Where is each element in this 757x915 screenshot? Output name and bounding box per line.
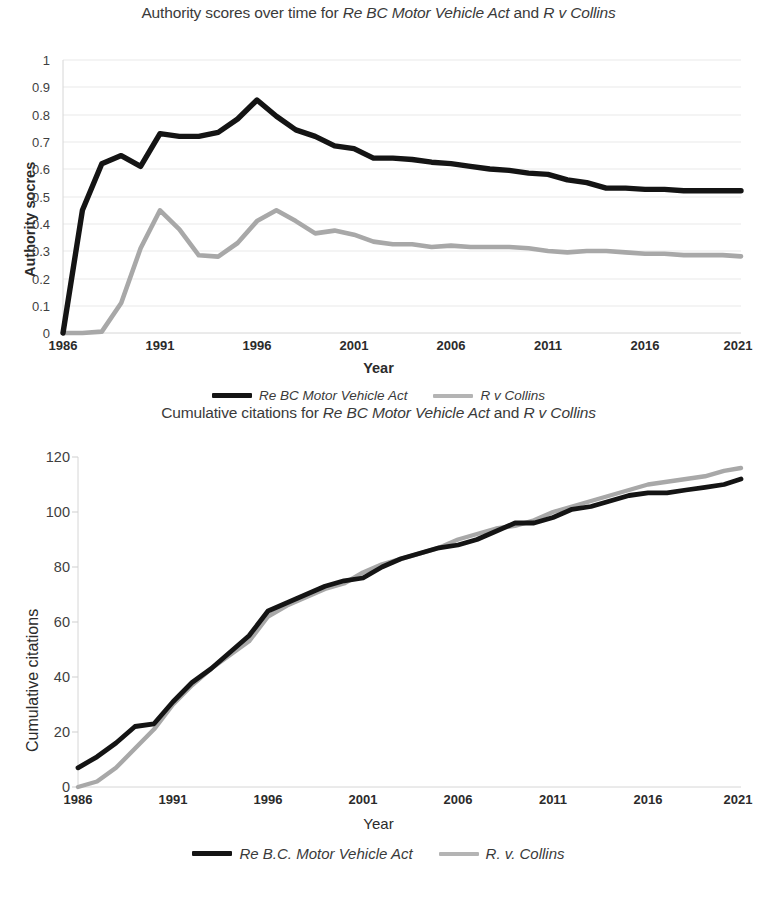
chart2-legend-item-re-bc-motor-vehicle-act[interactable]: Re B.C. Motor Vehicle Act [192,845,412,862]
chart2-series-r-v-collins [78,468,741,787]
chart1-ytick-1: 1 [0,53,50,68]
chart2-title-case1: Re BC Motor Vehicle Act [323,404,490,421]
chart1-title-case2: R v Collins [543,4,615,21]
chart2-legend-swatch-black [192,851,232,856]
chart1-ytick-0: 0 [0,326,50,341]
chart1-ytick-09: 0.9 [0,80,50,95]
chart2-xtick-2011: 2011 [539,792,567,807]
chart2-xtick-1986: 1986 [64,792,93,807]
chart2-xtick-1991: 1991 [159,792,188,807]
chart1-gridlines [63,60,741,306]
chart2-xtick-2006: 2006 [444,792,473,807]
chart2-title: Cumulative citations for Re BC Motor Veh… [0,400,757,422]
chart1-series-r-v-collins [63,210,741,333]
chart1-x-axis-title: Year [0,360,757,376]
chart2-y-tickmarks [72,457,78,787]
chart2-x-axis-title: Year [0,815,757,832]
chart1-xtick-1986: 1986 [49,338,78,353]
chart1-ytick-06: 0.6 [0,162,50,177]
chart2-ytick-120: 120 [0,449,70,465]
chart1-legend-swatch-gray [433,394,473,398]
chart2-title-mid: and [490,404,524,421]
chart1-xtick-2021: 2021 [724,338,753,353]
chart2-title-case2: R v Collins [523,404,595,421]
chart1-svg [0,22,757,352]
chart2-xtick-2021: 2021 [724,792,753,807]
chart1-ytick-01: 0.1 [0,299,50,314]
chart1-title-pre: Authority scores over time for [141,4,342,21]
chart2-legend-swatch-gray [439,852,479,856]
chart2-plot-area: Cumulative citations 120 100 80 60 40 20… [0,422,757,807]
chart2-ytick-100: 100 [0,504,70,520]
chart2-ytick-60: 60 [0,614,70,630]
cumulative-citations-figure: Cumulative citations for Re BC Motor Veh… [0,400,757,915]
chart2-ytick-20: 20 [0,724,70,740]
chart2-legend-label-r-v-collins: R. v. Collins [486,845,565,862]
chart2-legend: Re B.C. Motor Vehicle Act R. v. Collins [0,845,757,862]
chart1-xtick-2006: 2006 [437,338,466,353]
chart1-ytick-03: 0.3 [0,244,50,259]
authority-scores-figure: Authority scores over time for Re BC Mot… [0,0,757,400]
chart1-plot-area: Authority socres 1 0.9 0.8 0.7 0.6 0.5 0… [0,22,757,352]
chart1-legend-swatch-black [212,393,252,398]
chart1-title-case1: Re BC Motor Vehicle Act [343,4,510,21]
chart1-ytick-08: 0.8 [0,108,50,123]
chart2-xtick-2016: 2016 [634,792,663,807]
chart1-ytick-02: 0.2 [0,272,50,287]
chart1-ytick-07: 0.7 [0,135,50,150]
chart2-ytick-0: 0 [0,779,70,795]
chart1-xtick-1991: 1991 [146,338,175,353]
chart1-xtick-2011: 2011 [534,338,562,353]
chart2-ytick-40: 40 [0,669,70,685]
chart1-xtick-2016: 2016 [631,338,660,353]
chart2-legend-item-r-v-collins[interactable]: R. v. Collins [439,845,565,862]
chart1-title: Authority scores over time for Re BC Mot… [0,0,757,22]
chart1-xtick-2001: 2001 [340,338,369,353]
chart2-xtick-2001: 2001 [349,792,378,807]
chart1-ytick-05: 0.5 [0,190,50,205]
chart2-legend-label-re-bc-motor-vehicle-act: Re B.C. Motor Vehicle Act [239,845,412,862]
chart2-series-re-bc-motor-vehicle-act [78,479,741,768]
chart2-xtick-1996: 1996 [254,792,283,807]
chart2-title-pre: Cumulative citations for [161,404,323,421]
chart1-ytick-04: 0.4 [0,217,50,232]
chart1-title-mid: and [509,4,543,21]
chart2-ytick-80: 80 [0,559,70,575]
chart2-svg [0,422,757,807]
chart1-xtick-1996: 1996 [243,338,272,353]
